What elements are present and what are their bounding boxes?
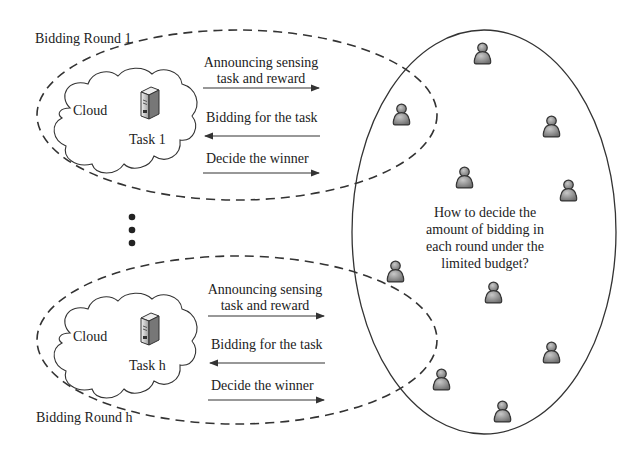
round-h-text: Bidding Round h [36, 410, 132, 425]
question-line: How to decide the [410, 204, 560, 221]
person-icon [393, 104, 409, 125]
question-line: each round under the [410, 238, 560, 255]
message-line: task and reward [200, 298, 330, 314]
person-icon [485, 282, 501, 303]
cloud-label: Cloud [73, 329, 107, 345]
person-icon [387, 261, 403, 282]
cloud-shape-1 [54, 68, 197, 173]
message-announce: Announcing sensing task and reward [196, 55, 326, 87]
question-line: amount of bidding in [410, 221, 560, 238]
cloud-shape-h [54, 293, 197, 398]
vertical-dots-icon [129, 214, 136, 247]
message-bid: Bidding for the task [211, 337, 323, 353]
message-decide: Decide the winner [211, 378, 314, 394]
person-icon [543, 116, 559, 137]
person-icon [543, 342, 559, 363]
cloud-label: Cloud [73, 103, 107, 119]
message-announce: Announcing sensing task and reward [200, 282, 330, 314]
person-icon [456, 167, 472, 188]
message-bid: Bidding for the task [206, 110, 318, 126]
message-line: Announcing sensing [196, 55, 326, 71]
server-icon [141, 87, 159, 119]
server-icon [141, 313, 159, 345]
message-line: task and reward [196, 71, 326, 87]
person-icon [474, 43, 490, 64]
task-label: Task 1 [129, 132, 166, 148]
message-decide: Decide the winner [206, 151, 309, 167]
question-line: limited budget? [410, 255, 560, 272]
message-line: Announcing sensing [200, 282, 330, 298]
person-icon [433, 369, 449, 390]
round-1-title: Bidding Round 1 [35, 31, 131, 47]
person-icon [560, 180, 576, 201]
round-h-title: Bidding Round h [36, 410, 132, 426]
person-icon [494, 401, 510, 422]
task-label: Task h [129, 358, 166, 374]
crowd-question: How to decide the amount of bidding in e… [410, 204, 560, 272]
